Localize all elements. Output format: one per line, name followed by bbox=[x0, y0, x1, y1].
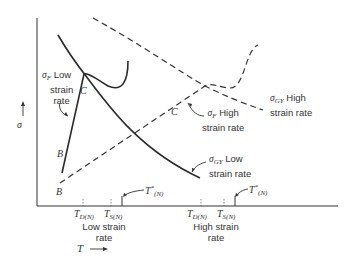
x-axis-label: T bbox=[77, 243, 83, 254]
sigma-f-low-label: σF Low strain rate bbox=[40, 69, 73, 106]
high-strain-rate-label: High strain rate bbox=[188, 221, 244, 243]
tstar-high-label: T*(N) bbox=[249, 182, 267, 199]
sigma-gy-low-label: σGY Low strain rate bbox=[209, 153, 251, 179]
low-strain-rate-label: Low strain rate bbox=[78, 221, 130, 243]
diagram-canvas bbox=[0, 0, 354, 267]
y-axis-arrow-head bbox=[21, 101, 25, 106]
leader-tstar-low-head bbox=[123, 193, 127, 197]
point-b-high: B bbox=[56, 186, 62, 197]
point-c-high: C bbox=[171, 106, 178, 117]
point-c-low: C bbox=[80, 85, 87, 96]
sigma-gy-high-label: σGY High strain rate bbox=[270, 92, 312, 118]
sigma-gy-low-curve bbox=[58, 35, 200, 178]
sigma-f-high-label: σF High strain rate bbox=[202, 107, 244, 133]
leader-sigma-gy-low bbox=[192, 162, 206, 172]
y-axis-label: σ bbox=[17, 119, 22, 130]
point-b-low: B bbox=[57, 148, 63, 159]
tstar-low-label: T*(N) bbox=[145, 183, 163, 200]
x-axis-arrow-head bbox=[103, 247, 108, 251]
leader-tstar-low bbox=[124, 190, 144, 196]
sigma-gy-high-curve bbox=[93, 18, 263, 110]
